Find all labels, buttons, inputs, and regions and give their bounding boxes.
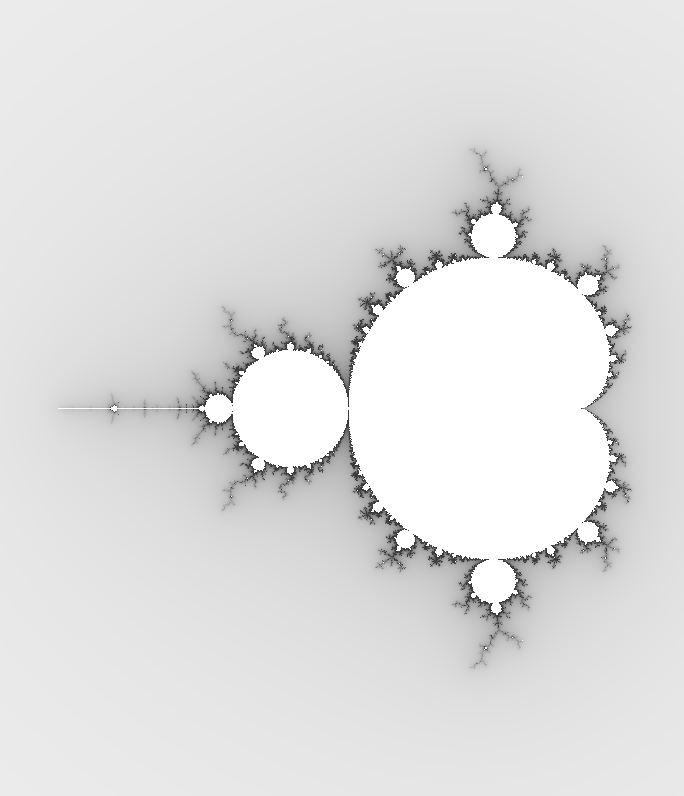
mandelbrot-fractal-image <box>0 0 684 796</box>
